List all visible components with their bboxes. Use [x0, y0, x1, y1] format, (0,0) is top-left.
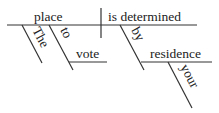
prepositional-object-word: residence: [150, 46, 201, 61]
preposition-word: by: [128, 24, 148, 43]
predicate-word: is determined: [108, 9, 181, 24]
sentence-diagram: place is determined The to vote by resid…: [0, 0, 219, 113]
subject-word: place: [34, 9, 62, 24]
infinitive-marker-word: to: [57, 24, 75, 41]
infinitive-verb-word: vote: [76, 46, 99, 61]
